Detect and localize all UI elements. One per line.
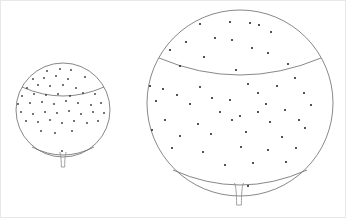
marker-dot [303, 92, 305, 94]
large-sphere-stem [235, 183, 244, 205]
small-sphere-outline [16, 63, 110, 157]
marker-dot [298, 119, 300, 121]
marker-dot [203, 56, 205, 58]
large-sphere [147, 10, 333, 205]
marker-dot [229, 99, 231, 101]
marker-dot [295, 147, 297, 149]
marker-dot [73, 120, 75, 122]
marker-dot [214, 37, 216, 39]
marker-dot [247, 185, 249, 187]
small-sphere-stem [60, 152, 66, 167]
marker-dot [29, 102, 31, 104]
marker-dot [59, 68, 61, 70]
marker-dot [251, 47, 253, 49]
marker-dot [197, 123, 199, 125]
marker-dot [252, 162, 254, 164]
marker-dot [37, 84, 39, 86]
marker-dot [231, 39, 233, 41]
marker-dot [21, 95, 23, 97]
marker-dot [257, 111, 259, 113]
marker-dot [294, 77, 296, 79]
marker-dot [53, 103, 55, 105]
marker-dot [44, 111, 46, 113]
marker-dot [54, 132, 56, 134]
marker-dot [32, 78, 34, 80]
marker-dot [257, 92, 259, 94]
figure-frame [1, 1, 346, 218]
marker-dot [211, 97, 213, 99]
marker-dot [284, 109, 286, 111]
marker-dot [92, 111, 94, 113]
marker-dot [199, 23, 201, 25]
marker-dot [100, 102, 102, 104]
marker-dot [269, 121, 271, 123]
marker-dot [189, 103, 191, 105]
marker-dot [97, 120, 99, 122]
small-sphere-lower-latitude-arc [32, 147, 94, 155]
marker-dot [17, 103, 19, 105]
marker-dot [33, 93, 35, 95]
marker-dot [49, 119, 51, 121]
large-sphere-lower-latitude-arc [173, 170, 307, 185]
marker-dot [162, 88, 164, 90]
marker-dot [276, 85, 278, 87]
marker-dot [80, 113, 82, 115]
marker-dot [199, 86, 201, 88]
marker-dot [310, 104, 312, 106]
marker-dot [56, 112, 58, 114]
marker-dot [149, 85, 151, 87]
marker-dot [169, 49, 171, 51]
marker-dot [267, 149, 269, 151]
marker-dot [69, 95, 71, 97]
marker-dot [70, 69, 72, 71]
marker-dot [249, 22, 251, 24]
marker-dot [304, 127, 306, 129]
marker-dot [57, 93, 59, 95]
marker-dot [185, 41, 187, 43]
large-sphere-upper-latitude-arc [159, 58, 321, 75]
marker-dot [37, 121, 39, 123]
marker-dot [235, 69, 237, 71]
marker-dot [75, 87, 77, 89]
marker-dot [32, 113, 34, 115]
marker-dot [62, 84, 64, 86]
small-sphere [16, 63, 110, 167]
marker-dot [247, 83, 249, 85]
marker-dot [287, 63, 289, 65]
marker-dot [270, 31, 272, 33]
marker-dot [61, 122, 63, 124]
marker-dot [86, 122, 88, 124]
marker-dot [267, 52, 269, 54]
marker-dot [240, 146, 242, 148]
marker-dot [94, 93, 96, 95]
marker-dot [49, 85, 51, 87]
marker-dot [90, 104, 92, 106]
sphere-objects-layer [16, 10, 333, 205]
marker-dot [26, 87, 28, 89]
marker-dot [281, 136, 283, 138]
figure-root [0, 0, 346, 218]
marker-dot [55, 75, 57, 77]
marker-dot [265, 103, 267, 105]
marker-dot [40, 130, 42, 132]
marker-dot [43, 77, 45, 79]
marker-dot [239, 115, 241, 117]
marker-dot [67, 78, 69, 80]
large-sphere-markers [149, 21, 312, 187]
marker-dot [164, 119, 166, 121]
marker-dot [229, 21, 231, 23]
marker-dot [84, 76, 86, 78]
marker-dot [179, 65, 181, 67]
marker-dot [103, 112, 105, 114]
marker-dot [171, 147, 173, 149]
marker-dot [71, 130, 73, 132]
marker-dot [219, 111, 221, 113]
marker-dot [25, 120, 27, 122]
marker-dot [245, 131, 247, 133]
marker-dot [151, 129, 153, 131]
marker-dot [224, 164, 226, 166]
marker-dot [77, 102, 79, 104]
small-sphere-markers [17, 68, 105, 152]
marker-dot [65, 100, 67, 102]
marker-dot [20, 111, 22, 113]
